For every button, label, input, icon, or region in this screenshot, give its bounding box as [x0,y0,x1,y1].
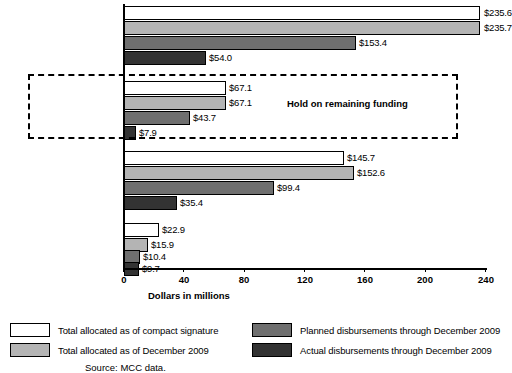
bar-irrigated-agriculture-series-3 [124,196,177,210]
bar-rural-road-series-2 [124,111,190,125]
x-tick-200 [425,268,426,272]
x-tick-40 [183,268,184,272]
x-tick-0 [123,268,124,272]
bar-irrigated-agriculture-series-2 [124,181,274,195]
x-tick-80 [244,268,245,272]
bar-value-rural-road-series-1: $67.1 [229,96,252,110]
x-tick-240 [485,268,486,272]
x-tick-label-160: 160 [357,274,373,285]
bar-value-program-administration-series-0: $22.9 [162,223,185,237]
bar-rural-road-series-1 [124,96,226,110]
legend-swatch-icon-series-0 [10,323,50,337]
bar-total-for-compact-series-0 [124,6,480,20]
bar-value-rural-road-series-3: $7.9 [139,126,157,140]
bar-value-irrigated-agriculture-series-1: $152.6 [357,166,385,180]
bar-total-for-compact-series-3 [124,51,206,65]
x-tick-160 [364,268,365,272]
x-tick-label-0: 0 [121,274,126,285]
bar-rural-road-series-3 [124,126,136,140]
bar-value-total-for-compact-series-0: $235.6 [484,6,512,20]
bar-value-rural-road-series-0: $67.1 [229,81,252,95]
legend-swatch-icon-series-1 [10,343,50,357]
chart-legend: Total allocated as of compact signature … [0,322,502,369]
legend-label-series-3: Actual disbursements through December 20… [300,344,492,357]
x-tick-label-120: 120 [297,274,313,285]
x-axis-line [123,268,487,270]
bar-value-total-for-compact-series-3: $54.0 [209,51,232,65]
x-axis-title: Dollars in millions [148,290,230,301]
legend-label-series-0: Total allocated as of compact signature [58,324,218,337]
bar-value-irrigated-agriculture-series-2: $99.4 [277,181,300,195]
bar-rural-road-series-0 [124,81,226,95]
source-footnote: Source: MCC data. [85,362,166,373]
bar-value-total-for-compact-series-2: $153.4 [359,36,387,50]
x-tick-label-240: 240 [478,274,494,285]
x-tick-120 [304,268,305,272]
bar-value-rural-road-series-2: $43.7 [193,111,216,125]
x-tick-label-80: 80 [239,274,250,285]
bar-value-total-for-compact-series-1: $235.7 [484,21,512,35]
bar-total-for-compact-series-2 [124,36,356,50]
bar-total-for-compact-series-1 [124,21,480,35]
legend-swatch-icon-series-2 [252,323,292,337]
plot-area: Total for compact $235.6 $235.7 $153.4 $… [0,0,502,272]
legend-label-series-1: Total allocated as of December 2009 [58,344,209,357]
x-tick-label-200: 200 [417,274,433,285]
legend-label-series-2: Planned disbursements through December 2… [300,324,500,337]
bar-irrigated-agriculture-series-0 [124,151,344,165]
bar-program-administration-series-0 [124,223,159,237]
hold-on-funding-callout-label: Hold on remaining funding [287,98,408,109]
bar-value-irrigated-agriculture-series-3: $35.4 [180,196,203,210]
bar-value-irrigated-agriculture-series-0: $145.7 [347,151,375,165]
x-tick-label-40: 40 [179,274,190,285]
legend-swatch-icon-series-3 [252,343,292,357]
bar-irrigated-agriculture-series-1 [124,166,354,180]
